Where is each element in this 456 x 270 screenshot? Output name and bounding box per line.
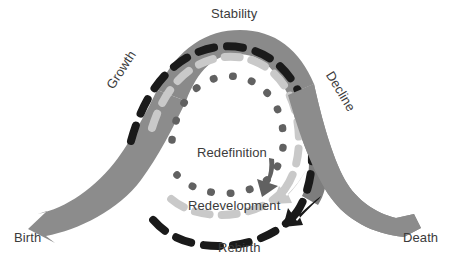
label-redevelopment: Redevelopment: [188, 199, 280, 212]
label-birth: Birth: [14, 231, 41, 244]
label-rebirth: Rebirth: [218, 241, 261, 254]
spiral-graphic: [0, 0, 456, 270]
label-redefinition: Redefinition: [197, 146, 267, 159]
lifecycle-spiral-diagram: Stability Growth Decline Birth Death Red…: [0, 0, 456, 270]
birth-wave-tail: [28, 90, 186, 243]
label-death: Death: [403, 231, 438, 244]
label-stability: Stability: [211, 7, 257, 20]
